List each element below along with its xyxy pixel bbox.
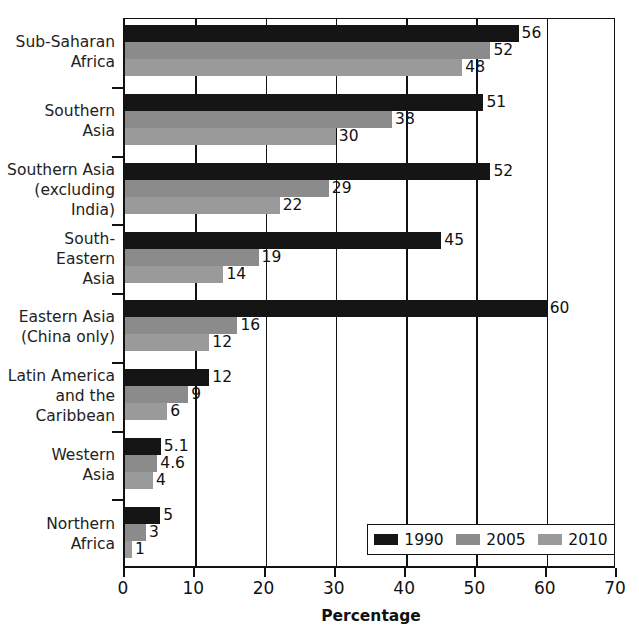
bar-value-label: 45: [441, 232, 464, 249]
bar-2010: [125, 334, 209, 351]
legend-item-2005: 2005: [456, 532, 525, 548]
x-axis-tick-label: 0: [103, 578, 143, 598]
bar-2005: [125, 180, 329, 197]
y-axis-tick: [112, 293, 125, 295]
bar-value-label: 16: [237, 317, 260, 334]
bar-2005: [125, 455, 157, 472]
bar-2005: [125, 42, 490, 59]
y-axis-tick: [112, 362, 125, 364]
bar-1990: [125, 507, 160, 524]
legend-swatch-icon: [538, 534, 562, 545]
y-axis-tick: [112, 431, 125, 433]
bar-value-label: 14: [223, 266, 246, 283]
bar-group: 451914: [125, 225, 614, 294]
bar-1990: [125, 300, 547, 317]
bar-1990: [125, 232, 441, 249]
x-axis-tick-label: 40: [384, 578, 424, 598]
y-axis-tick: [112, 87, 125, 89]
x-axis-tick-label: 50: [454, 578, 494, 598]
x-axis-tick-label: 70: [595, 578, 635, 598]
bar-1990: [125, 94, 483, 111]
bar-value-label: 1: [132, 541, 145, 558]
bar-value-label: 56: [519, 25, 542, 42]
y-axis-tick: [112, 156, 125, 158]
x-axis-title: Percentage: [0, 607, 639, 625]
bar-value-label: 9: [188, 386, 201, 403]
bar-value-label: 3: [146, 524, 159, 541]
bar-2010: [125, 541, 132, 558]
legend-label: 1990: [404, 532, 443, 548]
plot-area: 56524851383052292245191460161212965.14.6…: [123, 18, 615, 568]
x-axis-tick-70: [615, 568, 617, 577]
bar-group: 1296: [125, 363, 614, 432]
bar-group: 565248: [125, 19, 614, 88]
bar-2005: [125, 317, 237, 334]
x-axis-tick-label: 10: [173, 578, 213, 598]
bar-value-label: 4.6: [157, 455, 185, 472]
bar-1990: [125, 369, 209, 386]
bar-2010: [125, 128, 336, 145]
bar-group: 601612: [125, 294, 614, 363]
legend-swatch-icon: [374, 534, 398, 545]
legend-item-2010: 2010: [538, 532, 607, 548]
x-axis-tick-40: [404, 568, 406, 577]
y-category-label: Western Asia: [0, 445, 115, 485]
bar-value-label: 19: [259, 249, 282, 266]
x-axis-tick-20: [264, 568, 266, 577]
y-category-label: Sub-Saharan Africa: [0, 32, 115, 72]
legend-label: 2005: [486, 532, 525, 548]
bar-group: 522922: [125, 157, 614, 226]
x-axis-tick-label: 20: [244, 578, 284, 598]
bar-value-label: 5.1: [161, 438, 189, 455]
y-category-label: Southern Asia: [0, 101, 115, 141]
bar-group: 5.14.64: [125, 432, 614, 501]
x-axis-tick-10: [193, 568, 195, 577]
bar-2010: [125, 197, 280, 214]
bar-2005: [125, 249, 259, 266]
bar-2005: [125, 386, 188, 403]
bar-1990: [125, 163, 490, 180]
bar-value-label: 4: [153, 472, 166, 489]
bar-2010: [125, 59, 462, 76]
bar-2010: [125, 266, 223, 283]
bar-2010: [125, 403, 167, 420]
y-category-label: South- Eastern Asia: [0, 229, 115, 289]
x-axis-tick-label: 60: [525, 578, 565, 598]
legend-label: 2010: [568, 532, 607, 548]
y-axis-tick: [112, 224, 125, 226]
legend-item-1990: 1990: [374, 532, 443, 548]
bar-group: 513830: [125, 88, 614, 157]
y-category-label: Latin America and the Caribbean: [0, 366, 115, 426]
bar-value-label: 60: [547, 300, 570, 317]
bar-value-label: 51: [483, 94, 506, 111]
bar-1990: [125, 438, 161, 455]
bar-value-label: 52: [490, 42, 513, 59]
bar-value-label: 30: [336, 128, 359, 145]
y-category-label: Northern Africa: [0, 514, 115, 554]
bar-value-label: 52: [490, 163, 513, 180]
x-axis-tick-50: [474, 568, 476, 577]
y-axis-tick: [112, 499, 125, 501]
x-axis-tick-60: [545, 568, 547, 577]
x-axis-tick-0: [123, 568, 125, 577]
bar-value-label: 38: [392, 111, 415, 128]
bar-2005: [125, 524, 146, 541]
bar-value-label: 29: [329, 180, 352, 197]
y-category-label: Southern Asia (excluding India): [0, 160, 115, 220]
bar-2005: [125, 111, 392, 128]
y-category-label: Eastern Asia (China only): [0, 307, 115, 347]
bar-value-label: 12: [209, 334, 232, 351]
bar-2010: [125, 472, 153, 489]
bar-value-label: 5: [160, 507, 173, 524]
cut-off-title-remnant: [130, 0, 530, 11]
bar-value-label: 12: [209, 369, 232, 386]
bar-value-label: 48: [462, 59, 485, 76]
x-axis-tick-label: 30: [314, 578, 354, 598]
bar-1990: [125, 25, 519, 42]
bar-value-label: 22: [280, 197, 303, 214]
bar-chart: 56524851383052292245191460161212965.14.6…: [0, 0, 639, 633]
legend-swatch-icon: [456, 534, 480, 545]
x-axis-tick-30: [334, 568, 336, 577]
chart-legend: 199020052010: [367, 524, 615, 555]
bar-value-label: 6: [167, 403, 180, 420]
